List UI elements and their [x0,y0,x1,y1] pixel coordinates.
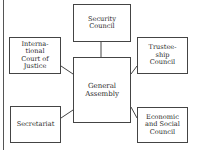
node-trusteeship-council: Trustee- ship Council [137,37,188,74]
node-label: General Assembly [85,82,119,98]
node-secretariat: Secretariat [10,106,61,143]
node-label: Secretariat [17,121,55,128]
node-economic-and-social-council: Economic and Social Council [137,107,188,143]
node-label: Interna- tional Court of Justice [21,41,49,71]
connector-icj [61,66,73,74]
connector-secretariat [61,110,73,118]
node-international-court-of-justice: Interna- tional Court of Justice [9,37,61,74]
node-security-council: Security Council [73,4,131,42]
node-label: Trustee- ship Council [149,44,177,66]
node-label: Security Council [88,16,116,31]
node-general-assembly: General Assembly [73,57,131,123]
node-label: Economic and Social Council [145,114,180,136]
